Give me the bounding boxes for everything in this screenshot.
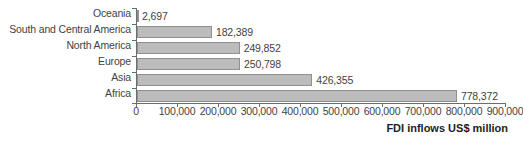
bar-value-asia: 426,355: [316, 74, 353, 86]
category-label-asia: Asia: [0, 72, 131, 83]
bar-chart: Oceania South and Central America North …: [0, 0, 523, 142]
x-tick-label-500000: 500,000: [323, 105, 360, 118]
x-tick-label-300000: 300,000: [241, 105, 278, 118]
bar-north-america[interactable]: [137, 42, 240, 54]
x-tick-label-600000: 600,000: [364, 105, 401, 118]
x-axis-line: [136, 103, 506, 104]
bar-value-north-america: 249,852: [244, 42, 281, 54]
x-tick-label-0: 0: [133, 105, 139, 118]
category-label-north-america: North America: [0, 40, 131, 51]
category-label-africa: Africa: [0, 88, 131, 99]
x-tick-label-700000: 700,000: [405, 105, 442, 118]
y-axis-tick: [132, 40, 136, 41]
bar-value-africa: 778,372: [461, 90, 498, 102]
bar-value-oceania: 2,697: [142, 10, 168, 22]
bar-africa[interactable]: [137, 90, 457, 102]
x-tick-label-800000: 800,000: [446, 105, 483, 118]
bar-oceania[interactable]: [137, 10, 139, 22]
x-tick-label-900000: 900,000: [487, 105, 523, 118]
category-label-europe: Europe: [0, 56, 131, 67]
x-axis-tick-labels: 0 100,000 200,000 300,000 400,000 500,00…: [136, 105, 521, 119]
category-axis-labels: Oceania South and Central America North …: [0, 8, 131, 103]
bar-asia[interactable]: [137, 74, 312, 86]
category-label-south-and-central-america: South and Central America: [0, 24, 131, 35]
bar-europe[interactable]: [137, 58, 240, 70]
plot-area: 2,697 182,389 249,852 250,798 426,355 77…: [136, 8, 506, 103]
y-axis-tick: [132, 24, 136, 25]
y-axis-tick: [132, 72, 136, 73]
y-axis-line: [136, 8, 137, 103]
category-label-oceania: Oceania: [0, 8, 131, 19]
bar-value-europe: 250,798: [244, 58, 281, 70]
y-axis-tick: [132, 8, 136, 9]
bar-value-south-and-central-america: 182,389: [216, 26, 253, 38]
x-tick-label-200000: 200,000: [200, 105, 237, 118]
bar-south-and-central-america[interactable]: [137, 26, 212, 38]
y-axis-tick: [132, 88, 136, 89]
x-tick-label-100000: 100,000: [159, 105, 196, 118]
x-axis-title: FDI inflows US$ million: [386, 122, 508, 134]
x-tick-label-400000: 400,000: [282, 105, 319, 118]
y-axis-tick: [132, 56, 136, 57]
